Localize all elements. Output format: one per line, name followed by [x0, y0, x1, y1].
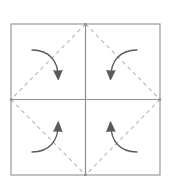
vertex-mark-left [10, 98, 12, 100]
vertex-mark-bottom [84, 174, 86, 176]
diagram-canvas [0, 0, 172, 185]
vertex-mark-right [159, 98, 161, 100]
paper-folding-diagram [0, 0, 172, 185]
vertex-mark-top [84, 23, 86, 25]
